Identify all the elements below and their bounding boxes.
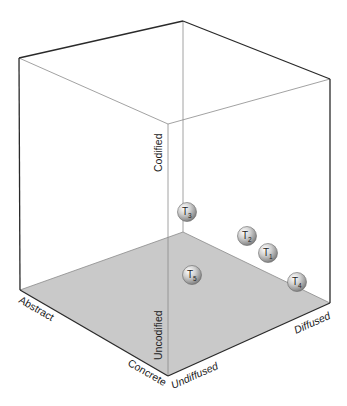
node-T5[interactable]: T5 — [183, 266, 202, 285]
edge-top-back-right — [183, 21, 330, 79]
node-T2[interactable]: T2 — [238, 227, 257, 246]
node-T4[interactable]: T4 — [288, 273, 307, 292]
cube-diagram: Codified Uncodified Abstract Concrete Un… — [0, 0, 347, 406]
node-subscript: 4 — [298, 282, 302, 289]
node-subscript: 1 — [269, 253, 273, 260]
edge-top-front-left — [19, 58, 168, 124]
node-subscript: 2 — [248, 236, 252, 243]
node-T3[interactable]: T3 — [178, 203, 197, 222]
edge-top-front-right — [168, 79, 330, 124]
node-T1[interactable]: T1 — [259, 244, 278, 263]
label-codified: Codified — [152, 133, 164, 172]
cube-floor — [20, 232, 330, 376]
label-uncodified: Uncodified — [152, 310, 164, 360]
edge-top-back-left — [19, 21, 183, 58]
edge-left-vertical — [19, 58, 20, 290]
node-subscript: 5 — [193, 275, 197, 282]
node-subscript: 3 — [188, 212, 192, 219]
